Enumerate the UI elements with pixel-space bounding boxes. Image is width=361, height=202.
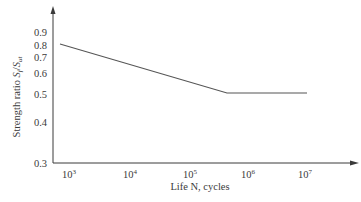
y-tick-labels: 0.9 0.8 0.7 0.6 0.5 0.4 0.3 — [34, 27, 48, 169]
x-tick-label: 105 — [183, 168, 198, 180]
y-tick-label: 0.3 — [34, 158, 47, 169]
x-axis-title: Life N, cycles — [170, 181, 229, 192]
x-tick-label: 103 — [62, 168, 77, 180]
x-tick-label: 106 — [241, 168, 256, 180]
x-tick-labels: 103 104 105 106 107 — [62, 168, 313, 180]
y-tick-label: 0.4 — [34, 117, 48, 128]
x-tick-label: 107 — [298, 168, 313, 180]
y-tick-label: 0.9 — [34, 27, 47, 38]
y-axis-title: Strength ratio Sf/Sut — [11, 56, 24, 138]
y-tick-label: 0.8 — [34, 40, 47, 51]
y-tick-label: 0.7 — [34, 52, 47, 63]
x-tick-label: 104 — [123, 168, 138, 180]
y-tick-label: 0.5 — [34, 89, 47, 100]
x-axis-arrow-icon — [350, 161, 359, 166]
y-axis-arrow-icon — [51, 6, 56, 14]
y-tick-label: 0.6 — [34, 68, 47, 79]
sn-curve-line — [60, 44, 307, 93]
sn-chart: 0.9 0.8 0.7 0.6 0.5 0.4 0.3 103 104 105 … — [0, 0, 361, 202]
